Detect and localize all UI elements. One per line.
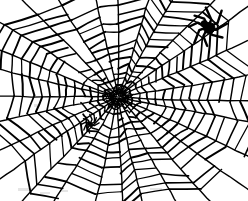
small-spider-cephalothorax <box>88 122 90 124</box>
paper-smudge <box>34 104 38 107</box>
web-drawing-canvas <box>0 0 248 201</box>
paper-smudge <box>40 192 50 194</box>
large-spider-cephalothorax <box>201 21 208 28</box>
spider-web-illustration: Spider web with spiders <box>0 0 248 201</box>
paper-smudge <box>18 188 32 191</box>
paper-smudge <box>150 188 162 190</box>
paper-smudge <box>60 190 68 192</box>
